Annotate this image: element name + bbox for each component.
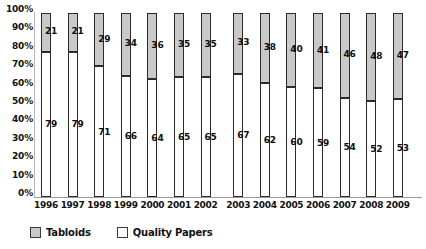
value-label-tabloids-1998: 29: [91, 35, 117, 44]
value-label-quality-papers-1997: 79: [65, 120, 91, 129]
bar-2003[interactable]: 3367: [233, 13, 243, 197]
value-label-quality-papers-2003: 67: [230, 131, 256, 140]
bar-2009[interactable]: 4753: [393, 13, 403, 197]
plot-area: 2179217929713466366435653565336738624060…: [34, 12, 422, 198]
value-label-tabloids-2004: 38: [257, 43, 283, 52]
value-label-tabloids-1997: 21: [65, 27, 91, 36]
bar-2007[interactable]: 4654: [340, 13, 350, 197]
bar-2000[interactable]: 3664: [147, 13, 157, 197]
value-label-quality-papers-2007: 54: [337, 143, 363, 152]
y-axis-tick-80pct: 80%: [0, 42, 33, 51]
value-label-quality-papers-2005: 60: [283, 138, 309, 147]
legend-swatch-quality-papers: [117, 227, 128, 238]
bar-2005[interactable]: 4060: [286, 13, 296, 197]
chart-page: 100%90%80%70%60%50%40%30%20%10%0% 217921…: [0, 0, 426, 249]
value-label-quality-papers-1996: 79: [38, 120, 64, 129]
value-label-quality-papers-1998: 71: [91, 128, 117, 137]
value-label-quality-papers-1999: 66: [118, 132, 144, 141]
y-axis-tick-90pct: 90%: [0, 23, 33, 32]
bar-1998[interactable]: 2971: [94, 13, 104, 197]
value-label-tabloids-2007: 46: [337, 50, 363, 59]
value-label-tabloids-2003: 33: [230, 38, 256, 47]
x-axis: 1996199719981999200020012002200320042005…: [34, 200, 422, 214]
value-label-tabloids-2005: 40: [283, 45, 309, 54]
bar-2001[interactable]: 3565: [174, 13, 184, 197]
value-label-quality-papers-2009: 53: [390, 144, 416, 153]
value-label-tabloids-1996: 21: [38, 27, 64, 36]
value-label-tabloids-2000: 36: [144, 41, 170, 50]
legend-label: Tabloids: [46, 227, 91, 238]
bar-2004[interactable]: 3862: [260, 13, 270, 197]
bar-2002[interactable]: 3565: [201, 13, 211, 197]
x-axis-line: [34, 197, 422, 198]
value-label-tabloids-2001: 35: [171, 40, 197, 49]
value-label-tabloids-2009: 47: [390, 51, 416, 60]
value-label-quality-papers-2004: 62: [257, 136, 283, 145]
bar-2008[interactable]: 4852: [366, 13, 376, 197]
value-label-tabloids-2002: 35: [198, 40, 224, 49]
legend-item-quality-papers[interactable]: Quality Papers: [117, 227, 213, 238]
value-label-quality-papers-2000: 64: [144, 134, 170, 143]
y-axis-tick-0pct: 0%: [0, 189, 33, 198]
y-axis-tick-100pct: 100%: [0, 5, 33, 14]
value-label-quality-papers-2008: 52: [363, 145, 389, 154]
x-axis-tick-2009: 2009: [381, 200, 415, 210]
x-axis-tick-2002: 2002: [189, 200, 223, 210]
y-axis-tick-60pct: 60%: [0, 79, 33, 88]
y-axis-tick-30pct: 30%: [0, 134, 33, 143]
legend-label: Quality Papers: [133, 227, 213, 238]
legend-swatch-tabloids: [30, 227, 41, 238]
bar-2006[interactable]: 4159: [313, 13, 323, 197]
y-axis-line: [34, 12, 35, 198]
value-label-quality-papers-2002: 65: [198, 133, 224, 142]
y-axis-tick-70pct: 70%: [0, 60, 33, 69]
y-axis-tick-10pct: 10%: [0, 171, 33, 180]
y-axis-tick-50pct: 50%: [0, 97, 33, 106]
y-axis: 100%90%80%70%60%50%40%30%20%10%0%: [0, 8, 33, 198]
bar-1996[interactable]: 2179: [41, 13, 51, 197]
value-label-quality-papers-2001: 65: [171, 133, 197, 142]
value-label-tabloids-1999: 34: [118, 39, 144, 48]
legend-item-tabloids[interactable]: Tabloids: [30, 227, 91, 238]
value-label-tabloids-2006: 41: [310, 46, 336, 55]
bar-1999[interactable]: 3466: [121, 13, 131, 197]
chart-legend: TabloidsQuality Papers: [30, 227, 213, 238]
bar-1997[interactable]: 2179: [68, 13, 78, 197]
y-axis-tick-40pct: 40%: [0, 115, 33, 124]
value-label-tabloids-2008: 48: [363, 52, 389, 61]
y-axis-tick-20pct: 20%: [0, 152, 33, 161]
value-label-quality-papers-2006: 59: [310, 139, 336, 148]
